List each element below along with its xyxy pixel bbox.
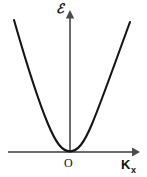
y-axis-label: ℰ: [56, 2, 64, 15]
x-axis-arrow-icon: [132, 148, 140, 157]
y-axis-arrow-icon: [66, 10, 74, 19]
parabola-curve: [14, 20, 130, 151]
x-axis-label-subscript: x: [131, 165, 136, 175]
parabola-plot-svg: [0, 0, 147, 177]
x-axis-label: Kx: [121, 158, 136, 175]
chart-figure: ℰ Kx O: [0, 0, 147, 177]
origin-label: O: [64, 157, 73, 169]
x-axis-label-base: K: [121, 157, 130, 172]
